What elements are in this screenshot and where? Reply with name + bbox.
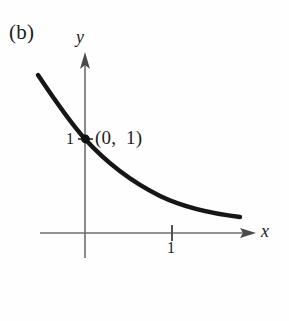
point-marker-0-1: [81, 135, 90, 144]
y-axis-label: y: [76, 28, 84, 46]
graph-canvas: [0, 0, 289, 321]
y-tick-label-1: 1: [66, 131, 74, 147]
x-tick-label-1: 1: [167, 240, 175, 256]
x-axis-label: x: [261, 222, 269, 240]
figure-container: (b) y x 1 1 (0, 1): [0, 0, 289, 321]
panel-label: (b): [9, 22, 34, 43]
point-annotation-label: (0, 1): [95, 128, 142, 147]
